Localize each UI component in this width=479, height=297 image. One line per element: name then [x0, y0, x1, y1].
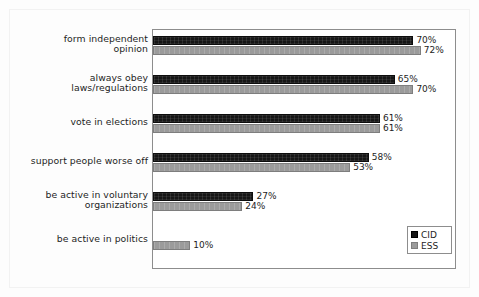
category-label-line: organizations [0, 200, 148, 211]
bar-cid [153, 75, 395, 84]
category-label-3: support people worse off [0, 156, 148, 167]
chart-page: form independentopinionalways obeylaws/r… [0, 0, 479, 297]
bar-ess [153, 85, 413, 94]
bar-ess [153, 124, 380, 133]
chart-legend: CIDESS [407, 226, 452, 254]
category-label-2: vote in elections [0, 117, 148, 128]
legend-swatch-icon [411, 231, 418, 238]
category-label-line: vote in elections [0, 117, 148, 128]
bar-value-label: 70% [416, 84, 436, 95]
category-label-4: be active in voluntaryorganizations [0, 190, 148, 211]
bar-value-label: 65% [398, 74, 418, 85]
bar-ess [153, 163, 350, 172]
category-label-1: always obeylaws/regulations [0, 73, 148, 94]
legend-swatch-icon [411, 242, 418, 249]
bar-cid [153, 114, 380, 123]
legend-entry-ess[interactable]: ESS [411, 240, 448, 251]
bar-value-label: 10% [193, 240, 213, 251]
bar-value-label: 53% [353, 162, 373, 173]
bar-ess [153, 241, 190, 250]
category-axis-labels: form independentopinionalways obeylaws/r… [0, 29, 148, 269]
bar-chart-figure: form independentopinionalways obeylaws/r… [0, 0, 479, 297]
category-label-line: be active in politics [0, 234, 148, 245]
legend-entry-cid[interactable]: CID [411, 229, 448, 240]
bar-cid [153, 153, 369, 162]
category-label-line: laws/regulations [0, 83, 148, 94]
bar-value-label: 58% [372, 152, 392, 163]
category-label-5: be active in politics [0, 234, 148, 245]
legend-label: CID [421, 230, 437, 240]
bar-value-label: 72% [424, 45, 444, 56]
category-label-line: opinion [0, 44, 148, 55]
bar-ess [153, 202, 242, 211]
bar-value-label: 24% [245, 201, 265, 212]
category-label-0: form independentopinion [0, 34, 148, 55]
plot-area: CIDESS 70%72%65%70%61%61%58%53%27%24%10% [152, 29, 456, 269]
bar-value-label: 61% [383, 123, 403, 134]
bar-ess [153, 46, 421, 55]
bar-cid [153, 36, 413, 45]
bar-cid [153, 192, 253, 201]
category-label-line: support people worse off [0, 156, 148, 167]
legend-label: ESS [421, 241, 438, 251]
